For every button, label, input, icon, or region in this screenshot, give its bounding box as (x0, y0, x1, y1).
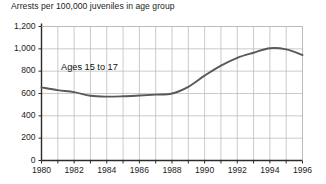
x-tick-label: 1996 (287, 166, 319, 175)
series-label-annotation: Ages 15 to 17 (61, 62, 118, 73)
x-tick-label: 1986 (123, 166, 155, 175)
x-tick-label: 1982 (58, 166, 90, 175)
y-tick-label: 600 (0, 89, 36, 98)
y-tick-label: 1,200 (0, 22, 36, 31)
y-tick-label: 0 (0, 156, 36, 165)
x-tick-label: 1988 (156, 166, 188, 175)
axis-ticks (39, 27, 303, 164)
plot-area (0, 0, 326, 184)
y-tick-label: 800 (0, 66, 36, 75)
x-tick-label: 1984 (91, 166, 123, 175)
x-tick-label: 1990 (189, 166, 221, 175)
y-tick-label: 200 (0, 133, 36, 142)
y-tick-label: 1,000 (0, 44, 36, 53)
x-tick-label: 1992 (221, 166, 253, 175)
x-tick-label: 1994 (254, 166, 286, 175)
y-tick-label: 400 (0, 111, 36, 120)
chart-figure: Arrests per 100,000 juveniles in age gro… (0, 0, 326, 184)
x-tick-label: 1980 (26, 166, 58, 175)
